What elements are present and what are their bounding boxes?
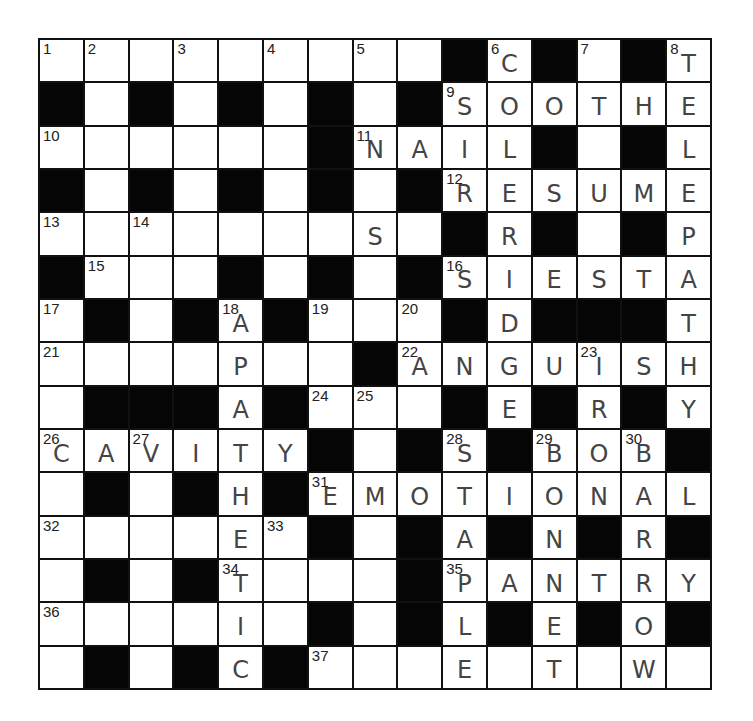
grid-cell[interactable]: E (667, 83, 710, 124)
grid-cell[interactable]: L (443, 603, 486, 644)
grid-cell[interactable]: H (622, 83, 665, 124)
grid-cell[interactable]: 33 (264, 517, 307, 558)
grid-cell[interactable] (354, 517, 397, 558)
grid-cell[interactable]: 16S (443, 257, 486, 298)
grid-cell[interactable]: 26C (40, 430, 83, 471)
grid-cell[interactable]: 20 (398, 300, 441, 341)
grid-cell[interactable] (130, 257, 173, 298)
grid-cell[interactable]: A (622, 473, 665, 514)
grid-cell[interactable] (85, 517, 128, 558)
grid-cell[interactable] (578, 213, 621, 254)
grid-cell[interactable] (85, 83, 128, 124)
grid-cell[interactable]: E (219, 517, 262, 558)
grid-cell[interactable]: 28S (443, 430, 486, 471)
grid-cell[interactable]: O (622, 603, 665, 644)
grid-cell[interactable]: 9S (443, 83, 486, 124)
grid-cell[interactable]: L (667, 127, 710, 168)
grid-cell[interactable]: 3 (174, 40, 217, 81)
grid-cell[interactable]: 31E (309, 473, 352, 514)
grid-cell[interactable]: O (533, 473, 576, 514)
grid-cell[interactable]: H (219, 473, 262, 514)
grid-cell[interactable] (174, 343, 217, 384)
grid-cell[interactable]: 36 (40, 603, 83, 644)
grid-cell[interactable]: 19 (309, 300, 352, 341)
grid-cell[interactable]: I (443, 127, 486, 168)
grid-cell[interactable]: 30B (622, 430, 665, 471)
grid-cell[interactable]: M (354, 473, 397, 514)
grid-cell[interactable]: L (667, 473, 710, 514)
grid-cell[interactable]: I (488, 473, 531, 514)
grid-cell[interactable]: E (443, 647, 486, 688)
grid-cell[interactable]: E (533, 603, 576, 644)
grid-cell[interactable] (354, 83, 397, 124)
grid-cell[interactable]: O (578, 430, 621, 471)
grid-cell[interactable]: A (219, 387, 262, 428)
grid-cell[interactable] (174, 517, 217, 558)
grid-cell[interactable] (40, 473, 83, 514)
grid-cell[interactable] (219, 213, 262, 254)
grid-cell[interactable] (354, 430, 397, 471)
grid-cell[interactable] (309, 343, 352, 384)
grid-cell[interactable]: U (533, 343, 576, 384)
grid-cell[interactable] (174, 257, 217, 298)
grid-cell[interactable] (130, 300, 173, 341)
grid-cell[interactable]: 29B (533, 430, 576, 471)
grid-cell[interactable] (264, 170, 307, 211)
grid-cell[interactable] (264, 603, 307, 644)
grid-cell[interactable]: R (622, 560, 665, 601)
grid-cell[interactable]: I (174, 430, 217, 471)
grid-cell[interactable]: A (85, 430, 128, 471)
grid-cell[interactable]: T (578, 560, 621, 601)
grid-cell[interactable]: 24 (309, 387, 352, 428)
grid-cell[interactable]: I (219, 603, 262, 644)
grid-cell[interactable]: Y (264, 430, 307, 471)
grid-cell[interactable] (130, 603, 173, 644)
grid-cell[interactable]: 25 (354, 387, 397, 428)
grid-cell[interactable] (667, 647, 710, 688)
grid-cell[interactable]: T (219, 430, 262, 471)
grid-cell[interactable]: U (578, 170, 621, 211)
grid-cell[interactable]: T (533, 647, 576, 688)
grid-cell[interactable] (309, 40, 352, 81)
grid-cell[interactable]: 37 (309, 647, 352, 688)
grid-cell[interactable] (85, 343, 128, 384)
grid-cell[interactable] (354, 300, 397, 341)
grid-cell[interactable] (174, 83, 217, 124)
grid-cell[interactable]: N (578, 473, 621, 514)
grid-cell[interactable] (130, 40, 173, 81)
grid-cell[interactable] (85, 213, 128, 254)
grid-cell[interactable]: P (219, 343, 262, 384)
grid-cell[interactable]: I (488, 257, 531, 298)
grid-cell[interactable] (354, 257, 397, 298)
grid-cell[interactable]: 23I (578, 343, 621, 384)
grid-cell[interactable]: 7 (578, 40, 621, 81)
grid-cell[interactable]: C (219, 647, 262, 688)
grid-cell[interactable]: D (488, 300, 531, 341)
grid-cell[interactable]: E (533, 257, 576, 298)
grid-cell[interactable]: A (443, 517, 486, 558)
grid-cell[interactable]: 22A (398, 343, 441, 384)
grid-cell[interactable] (174, 127, 217, 168)
grid-cell[interactable] (578, 127, 621, 168)
grid-cell[interactable]: A (398, 127, 441, 168)
grid-cell[interactable]: W (622, 647, 665, 688)
grid-cell[interactable]: R (578, 387, 621, 428)
grid-cell[interactable]: 34T (219, 560, 262, 601)
grid-cell[interactable] (398, 387, 441, 428)
grid-cell[interactable] (174, 170, 217, 211)
grid-cell[interactable] (264, 127, 307, 168)
grid-cell[interactable] (309, 560, 352, 601)
grid-cell[interactable] (130, 517, 173, 558)
grid-cell[interactable] (85, 603, 128, 644)
grid-cell[interactable] (130, 647, 173, 688)
grid-cell[interactable]: G (488, 343, 531, 384)
grid-cell[interactable] (264, 343, 307, 384)
grid-cell[interactable] (354, 647, 397, 688)
grid-cell[interactable]: 14 (130, 213, 173, 254)
grid-cell[interactable] (354, 170, 397, 211)
grid-cell[interactable]: A (488, 560, 531, 601)
grid-cell[interactable] (264, 560, 307, 601)
grid-cell[interactable]: 12R (443, 170, 486, 211)
grid-cell[interactable]: O (533, 83, 576, 124)
grid-cell[interactable]: E (667, 170, 710, 211)
